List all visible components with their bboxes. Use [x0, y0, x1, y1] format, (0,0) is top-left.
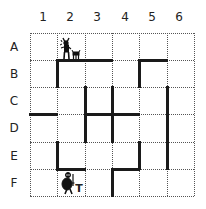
maze-wall	[166, 86, 169, 170]
row-label-d: D	[9, 122, 18, 134]
column-label-3: 3	[93, 11, 101, 23]
row-label-c: C	[10, 95, 18, 107]
maze-wall	[56, 59, 59, 88]
row-label-a: A	[10, 41, 18, 53]
column-label-6: 6	[175, 11, 183, 23]
maze-wall	[84, 86, 87, 143]
maze-wall	[138, 141, 141, 170]
maze-board: 1 2 3 4 5 6 A B C D E F	[0, 0, 206, 209]
row-label-f: F	[11, 177, 18, 189]
row-label-b: B	[10, 68, 18, 80]
grid-line-vertical	[194, 33, 195, 196]
maze-wall	[29, 113, 58, 116]
column-label-2: 2	[66, 11, 74, 23]
maze-wall	[138, 59, 168, 62]
column-label-1: 1	[39, 11, 47, 23]
knight-tag-label: T	[75, 183, 83, 194]
row-label-e: E	[10, 150, 18, 162]
maze-wall	[138, 59, 141, 88]
column-label-5: 5	[148, 11, 156, 23]
column-label-4: 4	[121, 11, 129, 23]
maze-wall	[111, 168, 114, 197]
maze-wall	[111, 168, 140, 171]
minotaur-icon	[58, 34, 85, 60]
maze-wall	[111, 86, 114, 143]
maze-wall	[56, 141, 59, 170]
